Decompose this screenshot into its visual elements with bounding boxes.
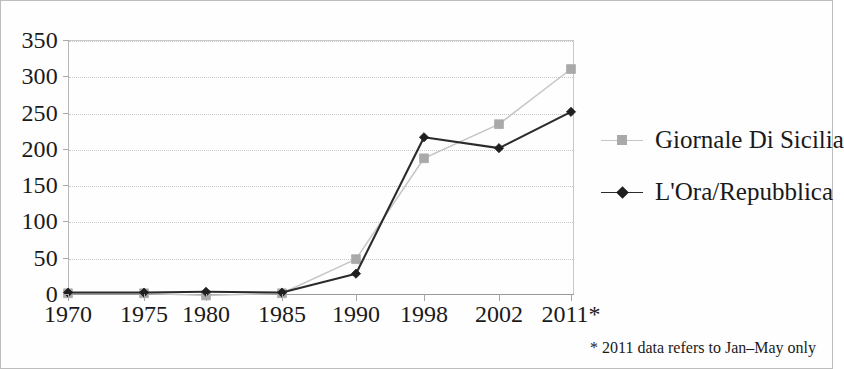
x-axis-tick-mark — [282, 294, 283, 301]
x-axis-tick-label: 1980 — [182, 301, 230, 327]
gridline — [69, 186, 573, 187]
x-axis-tick-label: 2011* — [541, 301, 600, 327]
legend-item-giornale-di-sicilia: Giornale Di Sicilia — [601, 114, 831, 166]
y-axis-tick-mark — [63, 258, 69, 259]
y-axis-tick-label: 150 — [21, 173, 58, 197]
x-axis-tick-mark — [68, 294, 69, 301]
x-axis-tick-mark — [206, 294, 207, 301]
y-axis-tick-mark — [63, 40, 69, 41]
x-axis-tick-label: 1990 — [332, 301, 380, 327]
y-axis-tick-mark — [63, 76, 69, 77]
y-axis-tick-label: 350 — [21, 28, 58, 52]
chart-legend: Giornale Di Sicilia L'Ora/Repubblica — [601, 114, 831, 218]
x-axis-tick-mark — [356, 294, 357, 301]
gridline — [69, 114, 573, 115]
y-axis-tick-label: 50 — [34, 246, 58, 270]
legend-label-giornale-di-sicilia: Giornale Di Sicilia — [655, 126, 844, 154]
chart-footnote: * 2011 data refers to Jan–May only — [590, 338, 816, 358]
gridline — [69, 150, 573, 151]
square-marker-icon — [617, 135, 627, 145]
x-axis-tick-mark — [144, 294, 145, 301]
gridline — [69, 41, 573, 42]
y-axis-tick-mark — [63, 113, 69, 114]
x-axis-tick-label: 1998 — [400, 301, 448, 327]
diamond-marker-icon — [616, 186, 629, 199]
y-axis-tick-label: 300 — [21, 64, 58, 88]
x-axis-tick-mark — [571, 294, 572, 301]
y-axis-tick-label: 100 — [21, 209, 58, 233]
y-axis-tick-label: 250 — [21, 101, 58, 125]
x-axis-tick-mark — [424, 294, 425, 301]
x-axis-tick-label: 1970 — [44, 301, 92, 327]
legend-label-lora-repubblica: L'Ora/Repubblica — [655, 178, 833, 206]
x-axis-tick-mark — [499, 294, 500, 301]
x-axis-tick-label: 2002 — [475, 301, 523, 327]
x-axis-tick-label: 1985 — [258, 301, 306, 327]
gridline — [69, 77, 573, 78]
y-axis-tick-label: 200 — [21, 137, 58, 161]
legend-swatch-lora-repubblica — [601, 184, 643, 200]
legend-item-lora-repubblica: L'Ora/Repubblica — [601, 166, 831, 218]
x-axis-tick-label: 1975 — [120, 301, 168, 327]
gridline — [69, 222, 573, 223]
y-axis-tick-mark — [63, 221, 69, 222]
y-axis-tick-mark — [63, 149, 69, 150]
gridline — [69, 259, 573, 260]
plot-area — [68, 40, 574, 294]
y-axis-tick-mark — [63, 185, 69, 186]
legend-swatch-giornale-di-sicilia — [601, 132, 643, 148]
